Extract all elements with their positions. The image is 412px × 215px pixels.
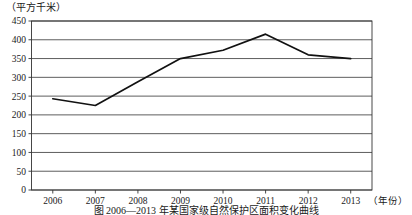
x-tick-label: 2012 <box>299 196 318 206</box>
y-tick-label: 200 <box>12 110 27 120</box>
x-tick-label: 2007 <box>86 196 105 206</box>
y-tick-label: 250 <box>12 92 27 102</box>
y-tick-label: 400 <box>12 35 27 45</box>
data-series-group <box>53 34 351 105</box>
y-tick-labels-group: 050100150200250300350400450 <box>12 16 27 195</box>
x-tick-label: 2011 <box>256 196 275 206</box>
x-tick-label: 2006 <box>43 196 62 206</box>
x-tick-labels-group: 20062007200820092010201120122013 <box>43 196 360 206</box>
figure-caption: 图 2006—2013 年某国家级自然保护区面积变化曲线 <box>0 205 412 215</box>
y-tick-label: 0 <box>21 185 26 195</box>
series-line-area <box>53 34 351 105</box>
plot-area-border <box>32 21 373 190</box>
y-tick-label: 100 <box>12 148 27 158</box>
x-axis-unit-group: （年份） <box>368 195 408 206</box>
figure-container: （平方千米） 050100150200250300350400450 20062… <box>0 0 412 215</box>
line-chart: 050100150200250300350400450 200620072008… <box>0 0 412 215</box>
x-tick-label: 2010 <box>214 196 233 206</box>
x-tick-label: 2013 <box>341 196 360 206</box>
y-tick-label: 350 <box>12 54 27 64</box>
x-tick-label: 2008 <box>128 196 147 206</box>
y-tick-label: 50 <box>17 167 27 177</box>
y-tick-label: 150 <box>12 129 27 139</box>
y-tick-label: 300 <box>12 73 27 83</box>
y-tick-label: 450 <box>12 16 27 26</box>
x-axis-unit-label: （年份） <box>368 195 408 206</box>
gridlines-group <box>32 21 373 190</box>
x-tick-marks-group <box>53 190 351 194</box>
plot-area-rect <box>32 21 373 190</box>
x-tick-label: 2009 <box>171 196 190 206</box>
